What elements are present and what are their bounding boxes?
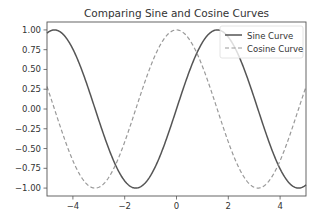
x-tick-label: −4 (67, 201, 80, 211)
y-tick-label: −0.25 (15, 124, 41, 134)
chart-container: Comparing Sine and Cosine Curves 1.000.7… (0, 0, 322, 220)
legend-sine-label: Sine Curve (247, 31, 293, 41)
x-tick-label: 2 (226, 201, 231, 211)
y-tick-label: 0.75 (22, 45, 41, 55)
x-tick-label: 0 (174, 201, 179, 211)
x-tick-label: 4 (277, 201, 282, 211)
y-tick-label: −1.00 (15, 183, 41, 193)
y-tick-label: 0.50 (22, 64, 41, 74)
y-axis: 1.000.750.500.250.00−0.25−0.50−0.75−1.00 (15, 25, 47, 193)
y-tick-label: −0.50 (15, 144, 41, 154)
y-tick-label: −0.75 (15, 163, 41, 173)
y-tick-label: 0.25 (22, 84, 41, 94)
legend: Sine Curve Cosine Curve (220, 26, 303, 58)
legend-cosine-label: Cosine Curve (247, 44, 303, 54)
x-axis: −4−2024 (67, 196, 283, 211)
y-tick-label: 0.00 (22, 104, 41, 114)
line-chart: Comparing Sine and Cosine Curves 1.000.7… (0, 0, 322, 220)
x-tick-label: −2 (118, 201, 131, 211)
chart-title: Comparing Sine and Cosine Curves (84, 7, 269, 19)
y-tick-label: 1.00 (22, 25, 41, 35)
